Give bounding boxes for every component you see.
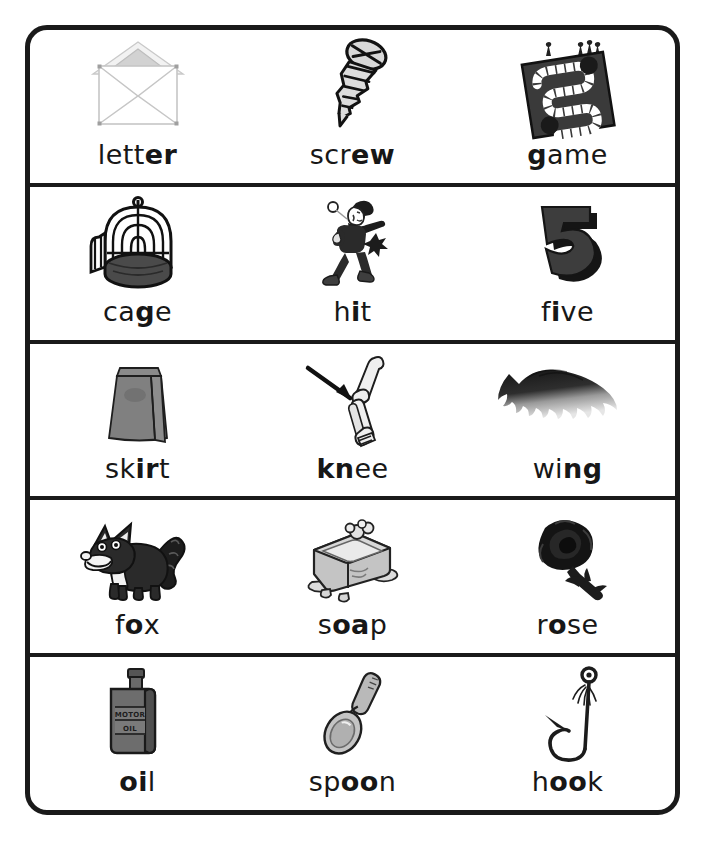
table-row: fox [30, 500, 675, 657]
word-plain-prefix: h [333, 296, 351, 327]
spoon-icon [287, 661, 419, 765]
word-label: five [541, 298, 594, 325]
word-bold-part: kn [316, 453, 354, 484]
word-bold-part: o [548, 609, 567, 640]
cell-knee[interactable]: knee [245, 344, 460, 497]
oil-bottle-icon: MOTOR OIL [72, 661, 204, 765]
cell-five[interactable]: five [460, 187, 675, 340]
word-plain-suffix: p [370, 609, 388, 640]
word-plain-suffix: k [587, 766, 603, 797]
cell-rose[interactable]: rose [460, 500, 675, 653]
word-label: wing [533, 455, 603, 482]
table-row: letter [30, 30, 675, 187]
word-plain-prefix: f [541, 296, 551, 327]
word-plain-suffix: t [159, 453, 170, 484]
fish-hook-icon [502, 661, 634, 765]
cell-fox[interactable]: fox [30, 500, 245, 653]
word-bold-part: ir [136, 453, 159, 484]
cell-hook[interactable]: hook [460, 657, 675, 810]
word-label: screw [310, 141, 395, 168]
word-plain-suffix: ee [354, 453, 388, 484]
word-label: spoon [309, 768, 396, 795]
word-plain-suffix: ame [547, 139, 608, 170]
word-plain-prefix: lett [98, 139, 145, 170]
word-plain-prefix: sk [105, 453, 136, 484]
word-plain-suffix: n [379, 766, 397, 797]
word-plain-prefix: sp [309, 766, 341, 797]
word-label: game [527, 141, 607, 168]
worksheet-page: letter [0, 0, 705, 845]
oil-bottle-label-line1: MOTOR [114, 711, 145, 719]
word-bold-part: ew [351, 139, 395, 170]
word-label: hit [333, 298, 371, 325]
word-plain-prefix: r [537, 609, 549, 640]
cell-oil[interactable]: MOTOR OIL oil [30, 657, 245, 810]
word-plain-suffix: ve [561, 296, 594, 327]
word-plain-suffix: e [155, 296, 172, 327]
word-plain-prefix: ca [103, 296, 135, 327]
word-plain-suffix: l [148, 766, 156, 797]
table-row: MOTOR OIL oil [30, 657, 675, 810]
word-label: fox [115, 611, 160, 638]
knee-bones-icon [287, 348, 419, 452]
screw-icon [287, 34, 419, 138]
birdcage-icon [72, 191, 204, 295]
word-label: hook [532, 768, 603, 795]
cell-wing[interactable]: wing [460, 344, 675, 497]
word-bold-part: g [135, 296, 155, 327]
word-label: rose [537, 611, 599, 638]
word-plain-suffix: se [567, 609, 598, 640]
cell-game[interactable]: game [460, 30, 675, 183]
word-bold-part: g [527, 139, 547, 170]
batter-icon [287, 191, 419, 295]
cell-cage[interactable]: cage [30, 187, 245, 340]
word-bold-part: o [125, 609, 144, 640]
cell-soap[interactable]: soap [245, 500, 460, 653]
word-label: skirt [105, 455, 170, 482]
oil-bottle-label-line2: OIL [123, 725, 137, 733]
word-plain-prefix: wi [533, 453, 563, 484]
table-row: cage [30, 187, 675, 344]
skirt-icon [72, 348, 204, 452]
word-plain-prefix: f [115, 609, 125, 640]
board-game-icon [502, 34, 634, 138]
word-bold-part: oi [119, 766, 148, 797]
cell-spoon[interactable]: spoon [245, 657, 460, 810]
word-plain-suffix: x [144, 609, 160, 640]
word-plain-prefix: s [318, 609, 332, 640]
cell-letter[interactable]: letter [30, 30, 245, 183]
worksheet-rows: letter [30, 30, 675, 810]
word-bold-part: i [551, 296, 561, 327]
wing-icon [502, 348, 634, 452]
word-bold-part: ng [563, 453, 602, 484]
rose-icon [502, 504, 634, 608]
word-plain-prefix: scr [310, 139, 351, 170]
word-bold-part: i [351, 296, 361, 327]
word-bold-part: er [145, 139, 177, 170]
word-plain-suffix: t [361, 296, 372, 327]
word-bold-part: oa [332, 609, 370, 640]
soap-bar-icon [287, 504, 419, 608]
word-label: oil [119, 768, 156, 795]
fox-icon [72, 504, 204, 608]
word-label: knee [316, 455, 388, 482]
cell-skirt[interactable]: skirt [30, 344, 245, 497]
word-label: cage [103, 298, 172, 325]
table-row: skirt [30, 344, 675, 501]
word-label: letter [98, 141, 177, 168]
envelope-icon [72, 34, 204, 138]
worksheet-frame: letter [25, 25, 680, 815]
word-plain-prefix: h [532, 766, 550, 797]
word-bold-part: oo [549, 766, 587, 797]
cell-screw[interactable]: screw [245, 30, 460, 183]
number-five-icon [502, 191, 634, 295]
cell-hit[interactable]: hit [245, 187, 460, 340]
word-bold-part: oo [341, 766, 379, 797]
word-label: soap [318, 611, 388, 638]
